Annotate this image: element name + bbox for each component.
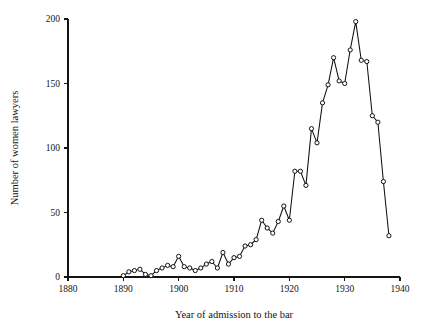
x-tick-label: 1910 <box>225 284 244 294</box>
data-point-marker <box>237 254 241 258</box>
x-tick-label: 1920 <box>280 284 299 294</box>
data-point-marker <box>215 266 219 270</box>
data-point-marker <box>370 114 374 118</box>
data-point-marker <box>309 127 313 131</box>
chart-axes <box>68 19 400 277</box>
x-axis-ticks: 1880189019001910192019301940 <box>59 277 410 294</box>
data-point-marker <box>315 141 319 145</box>
data-point-marker <box>320 101 324 105</box>
data-point-marker <box>171 265 175 269</box>
data-point-marker <box>226 262 230 266</box>
y-tick-label: 0 <box>55 272 60 282</box>
data-point-marker <box>199 266 203 270</box>
data-point-marker <box>365 59 369 63</box>
data-point-marker <box>271 231 275 235</box>
data-point-marker <box>265 226 269 230</box>
data-point-marker <box>287 218 291 222</box>
data-point-marker <box>121 274 125 278</box>
data-point-marker <box>381 179 385 183</box>
data-point-marker <box>188 266 192 270</box>
data-point-marker <box>143 272 147 276</box>
data-point-marker <box>132 268 136 272</box>
data-point-marker <box>260 218 264 222</box>
y-tick-label: 150 <box>46 79 61 89</box>
data-point-marker <box>160 266 164 270</box>
data-point-marker <box>127 270 131 274</box>
x-tick-label: 1900 <box>169 284 188 294</box>
data-point-marker <box>221 250 225 254</box>
data-point-marker <box>343 81 347 85</box>
data-series-group <box>121 19 391 277</box>
data-point-marker <box>298 169 302 173</box>
x-tick-label: 1880 <box>59 284 78 294</box>
y-axis-title: Number of women lawyers <box>9 91 20 206</box>
chart-figure: 050100150200 188018901900191019201930194… <box>0 0 424 335</box>
data-point-marker <box>204 262 208 266</box>
y-axis-ticks: 050100150200 <box>46 14 68 282</box>
data-point-marker <box>210 259 214 263</box>
x-tick-label: 1930 <box>335 284 354 294</box>
data-point-marker <box>138 267 142 271</box>
y-tick-label: 100 <box>46 143 61 153</box>
data-point-marker <box>249 243 253 247</box>
data-point-marker <box>177 254 181 258</box>
data-point-marker <box>193 268 197 272</box>
data-point-marker <box>282 204 286 208</box>
data-point-marker <box>154 268 158 272</box>
data-point-marker <box>254 237 258 241</box>
data-point-marker <box>376 120 380 124</box>
data-point-marker <box>166 263 170 267</box>
data-point-marker <box>182 265 186 269</box>
x-tick-label: 1890 <box>114 284 133 294</box>
y-tick-label: 200 <box>46 14 61 24</box>
data-point-marker <box>232 256 236 260</box>
data-point-marker <box>332 56 336 60</box>
data-point-marker <box>359 58 363 62</box>
data-point-marker <box>326 83 330 87</box>
data-point-marker <box>276 219 280 223</box>
data-point-marker <box>293 169 297 173</box>
data-point-marker <box>348 48 352 52</box>
y-tick-label: 50 <box>51 208 61 218</box>
data-point-marker <box>387 234 391 238</box>
data-point-marker <box>354 19 358 23</box>
x-axis-title: Year of admission to the bar <box>175 309 294 320</box>
data-point-marker <box>304 183 308 187</box>
line-chart-plot: 050100150200 188018901900191019201930194… <box>0 0 424 335</box>
data-point-marker <box>337 79 341 83</box>
data-point-marker <box>243 244 247 248</box>
data-point-marker <box>149 274 153 278</box>
series-markers <box>121 19 391 277</box>
x-tick-label: 1940 <box>391 284 410 294</box>
